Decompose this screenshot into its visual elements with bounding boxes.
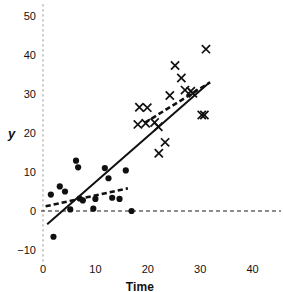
y-tick-label: 50 bbox=[24, 11, 36, 22]
data-point-circle bbox=[75, 164, 81, 170]
data-point-circle bbox=[116, 196, 122, 202]
data-marker-layer bbox=[48, 45, 210, 240]
data-point-cross bbox=[143, 104, 151, 112]
y-tick-label: −10 bbox=[17, 245, 36, 256]
y-axis-title: y bbox=[8, 127, 15, 140]
x-axis-title: Time bbox=[126, 281, 155, 292]
data-point-circle bbox=[50, 234, 56, 240]
x-tick-label: 0 bbox=[40, 264, 46, 275]
y-tick-label: 20 bbox=[24, 128, 36, 139]
y-tick-label: 10 bbox=[24, 167, 36, 178]
data-point-circle bbox=[67, 206, 73, 212]
data-point-cross bbox=[166, 91, 174, 99]
plot-canvas bbox=[0, 0, 283, 292]
data-point-circle bbox=[73, 158, 79, 164]
data-point-cross bbox=[155, 149, 163, 157]
data-point-circle bbox=[62, 188, 68, 194]
x-tick-label: 30 bbox=[194, 264, 206, 275]
overall-regression-solid bbox=[47, 82, 209, 224]
data-point-circle bbox=[128, 208, 134, 214]
data-point-circle bbox=[80, 197, 86, 203]
data-point-cross bbox=[171, 61, 179, 69]
circles-group-regression-dashed bbox=[46, 188, 128, 206]
data-point-cross bbox=[142, 119, 150, 127]
data-point-cross bbox=[202, 45, 210, 53]
data-point-cross bbox=[161, 138, 169, 146]
x-tick-label: 10 bbox=[89, 264, 101, 275]
data-point-cross bbox=[154, 123, 162, 131]
regression-line-layer bbox=[46, 82, 211, 224]
data-point-circle bbox=[105, 175, 111, 181]
data-point-circle bbox=[123, 167, 129, 173]
scatter-plot-figure: −1001020304050 010203040 y Time bbox=[0, 0, 283, 292]
data-point-circle bbox=[57, 183, 63, 189]
data-point-circle bbox=[102, 165, 108, 171]
data-point-circle bbox=[90, 206, 96, 212]
data-point-cross bbox=[134, 120, 142, 128]
y-tick-label: 30 bbox=[24, 89, 36, 100]
y-tick-label: 40 bbox=[24, 50, 36, 61]
data-point-cross bbox=[135, 103, 143, 111]
y-tick-label: 0 bbox=[30, 206, 36, 217]
data-point-circle bbox=[109, 195, 115, 201]
axis-layer bbox=[41, 4, 281, 262]
data-point-circle bbox=[48, 192, 54, 198]
x-tick-label: 20 bbox=[142, 264, 154, 275]
data-point-circle bbox=[92, 196, 98, 202]
data-point-cross bbox=[177, 74, 185, 82]
x-tick-label: 40 bbox=[246, 264, 258, 275]
